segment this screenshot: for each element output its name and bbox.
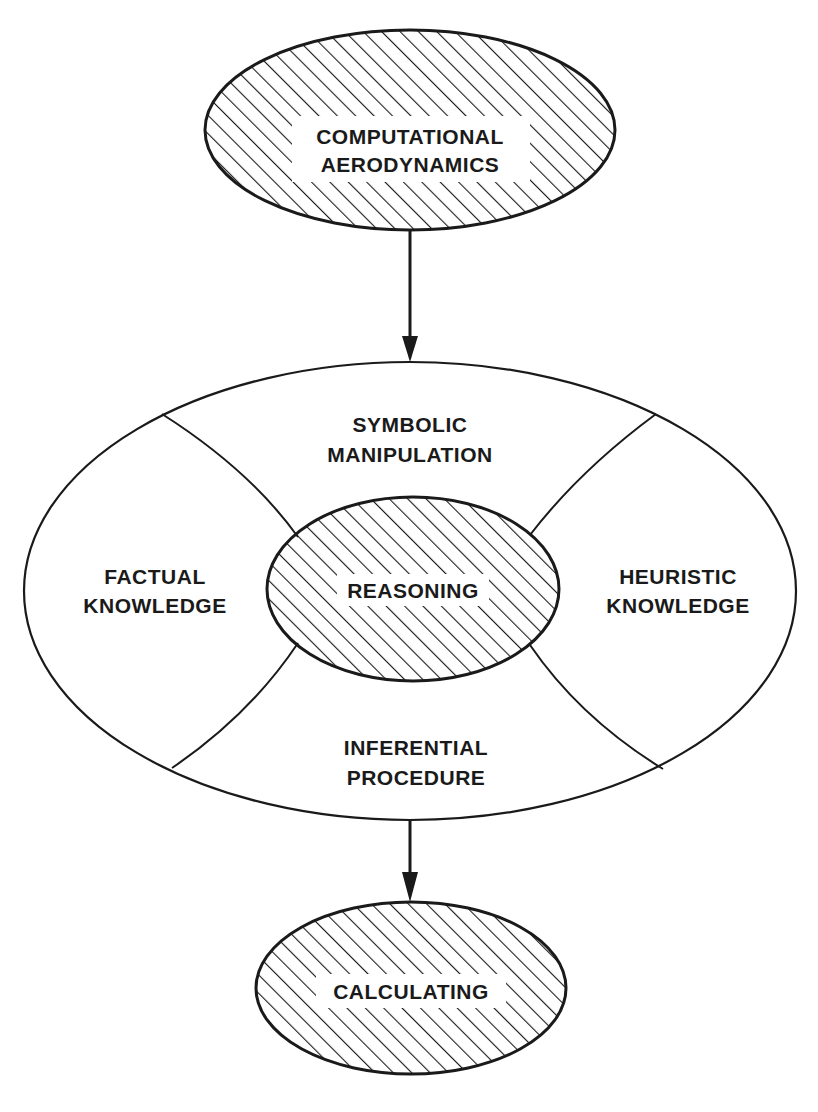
node-label-line2: AERODYNAMICS — [321, 153, 500, 176]
node-label: CALCULATING — [333, 980, 489, 1003]
segment-heuristic-line1: HEURISTIC — [619, 565, 737, 588]
diagram-canvas: COMPUTATIONAL AERODYNAMICS SYMBOLIC MANI… — [0, 0, 818, 1112]
node-computational-aerodynamics: COMPUTATIONAL AERODYNAMICS — [205, 30, 615, 230]
node-reasoning: REASONING — [267, 497, 559, 681]
segment-factual-line1: FACTUAL — [104, 565, 206, 588]
segment-symbolic-line2: MANIPULATION — [327, 443, 492, 466]
segment-symbolic-line1: SYMBOLIC — [353, 413, 468, 436]
segment-inferential-line2: PROCEDURE — [347, 766, 486, 789]
node-calculating: CALCULATING — [256, 902, 566, 1074]
segment-heuristic-line2: KNOWLEDGE — [606, 594, 749, 617]
arrowhead-icon — [402, 336, 418, 362]
arrow-top-to-ring — [402, 231, 418, 362]
node-label: REASONING — [347, 579, 479, 602]
node-label-line1: COMPUTATIONAL — [316, 125, 504, 148]
arrow-ring-to-calculating — [402, 820, 418, 902]
arrowhead-icon — [402, 872, 418, 902]
segment-factual-line2: KNOWLEDGE — [83, 594, 226, 617]
segment-inferential-line1: INFERENTIAL — [344, 736, 488, 759]
